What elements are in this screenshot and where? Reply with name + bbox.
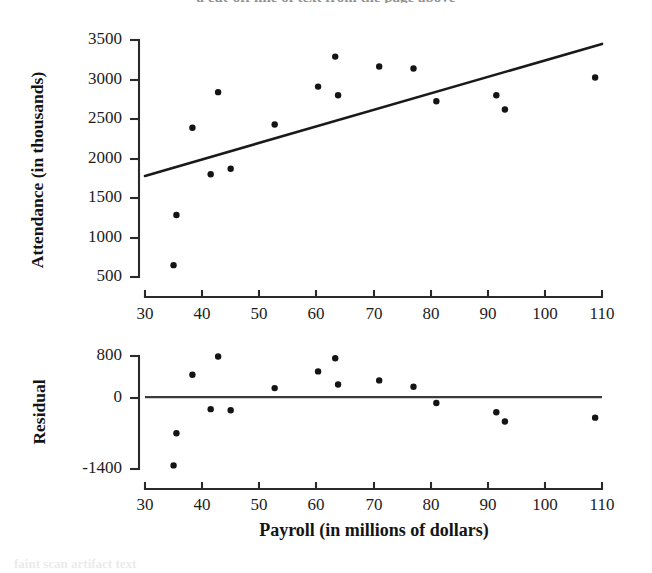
y-tick-label-1500: 1500	[88, 187, 122, 206]
residual-x-tick-label-50: 50	[251, 495, 268, 514]
data-point	[173, 430, 179, 436]
residual-x-tick-label-90: 90	[480, 495, 497, 514]
residual-points-group	[170, 353, 598, 468]
data-point	[410, 65, 416, 71]
data-point	[315, 83, 321, 89]
data-point	[376, 377, 382, 383]
data-point	[335, 92, 341, 98]
charts-svg: Attendance (in thousands) 3500 3000 2500…	[0, 0, 652, 573]
data-point	[215, 353, 221, 359]
residual-y-tick-label-800: 800	[97, 345, 123, 364]
scatter-x-tick-label-40: 40	[194, 304, 211, 323]
scatter-x-tick-label-30: 30	[137, 304, 154, 323]
data-point	[227, 166, 233, 172]
scatter-y-ticks	[130, 40, 139, 277]
data-point	[493, 409, 499, 415]
residual-x-tick-label-60: 60	[308, 495, 325, 514]
data-point	[502, 418, 508, 424]
data-point	[271, 385, 277, 391]
scatter-x-tick-label-50: 50	[251, 304, 268, 323]
y-tick-label-1000: 1000	[88, 227, 122, 246]
scatter-x-tick-label-60: 60	[308, 304, 325, 323]
data-point	[215, 89, 221, 95]
data-point	[592, 414, 598, 420]
data-point	[271, 121, 277, 127]
residual-axis-title: Residual	[29, 379, 49, 444]
scatter-x-tick-label-90: 90	[480, 304, 497, 323]
data-point	[376, 63, 382, 69]
y-tick-label-3000: 3000	[88, 69, 122, 88]
data-point	[592, 74, 598, 80]
residual-x-tick-label-80: 80	[423, 495, 440, 514]
data-point	[173, 212, 179, 218]
data-point	[170, 262, 176, 268]
data-point	[332, 355, 338, 361]
data-point	[410, 384, 416, 390]
residual-x-tick-label-110: 110	[590, 495, 615, 514]
residual-y-ticks	[130, 356, 139, 469]
y-tick-label-3500: 3500	[88, 29, 122, 48]
residual-y-tick-label-neg1400: -1400	[82, 458, 122, 477]
data-point	[332, 53, 338, 59]
data-point	[335, 381, 341, 387]
data-point	[433, 400, 439, 406]
payroll-axis-title: Payroll (in millions of dollars)	[259, 520, 489, 541]
scatter-x-tick-label-80: 80	[423, 304, 440, 323]
data-point	[170, 462, 176, 468]
scatterplot-panel: Attendance (in thousands) 3500 3000 2500…	[27, 29, 614, 323]
data-point	[502, 106, 508, 112]
residual-y-tick-label-0: 0	[114, 387, 123, 406]
residual-plot-panel: Residual 800 0 -1400	[29, 345, 614, 541]
data-point	[207, 171, 213, 177]
scatter-x-tick-label-70: 70	[366, 304, 383, 323]
scatter-points-group	[170, 53, 598, 268]
residual-x-tick-label-30: 30	[137, 495, 154, 514]
regression-line	[145, 44, 602, 176]
y-tick-label-500: 500	[97, 266, 123, 285]
residual-x-tick-label-40: 40	[194, 495, 211, 514]
data-point	[227, 407, 233, 413]
residual-x-tick-label-70: 70	[366, 495, 383, 514]
data-point	[189, 124, 195, 130]
data-point	[315, 368, 321, 374]
attendance-axis-title: Attendance (in thousands)	[27, 72, 47, 269]
y-tick-label-2000: 2000	[88, 148, 122, 167]
scatter-x-tick-label-100: 100	[532, 304, 558, 323]
figure-container: a cut-off line of text from the page abo…	[0, 0, 652, 573]
residual-x-tick-label-100: 100	[532, 495, 558, 514]
scatter-x-tick-label-110: 110	[590, 304, 615, 323]
data-point	[493, 92, 499, 98]
data-point	[433, 98, 439, 104]
data-point	[189, 372, 195, 378]
y-tick-label-2500: 2500	[88, 108, 122, 127]
data-point	[207, 406, 213, 412]
